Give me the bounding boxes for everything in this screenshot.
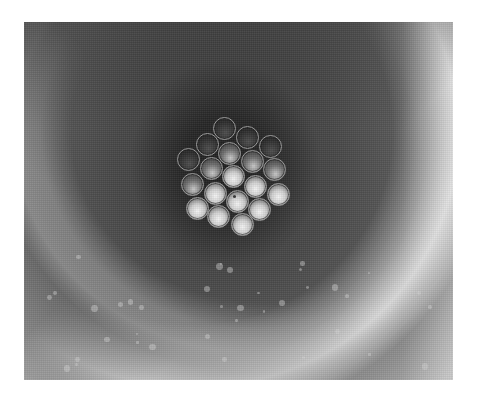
film-grain [24,22,453,380]
tube-photo [24,22,453,380]
